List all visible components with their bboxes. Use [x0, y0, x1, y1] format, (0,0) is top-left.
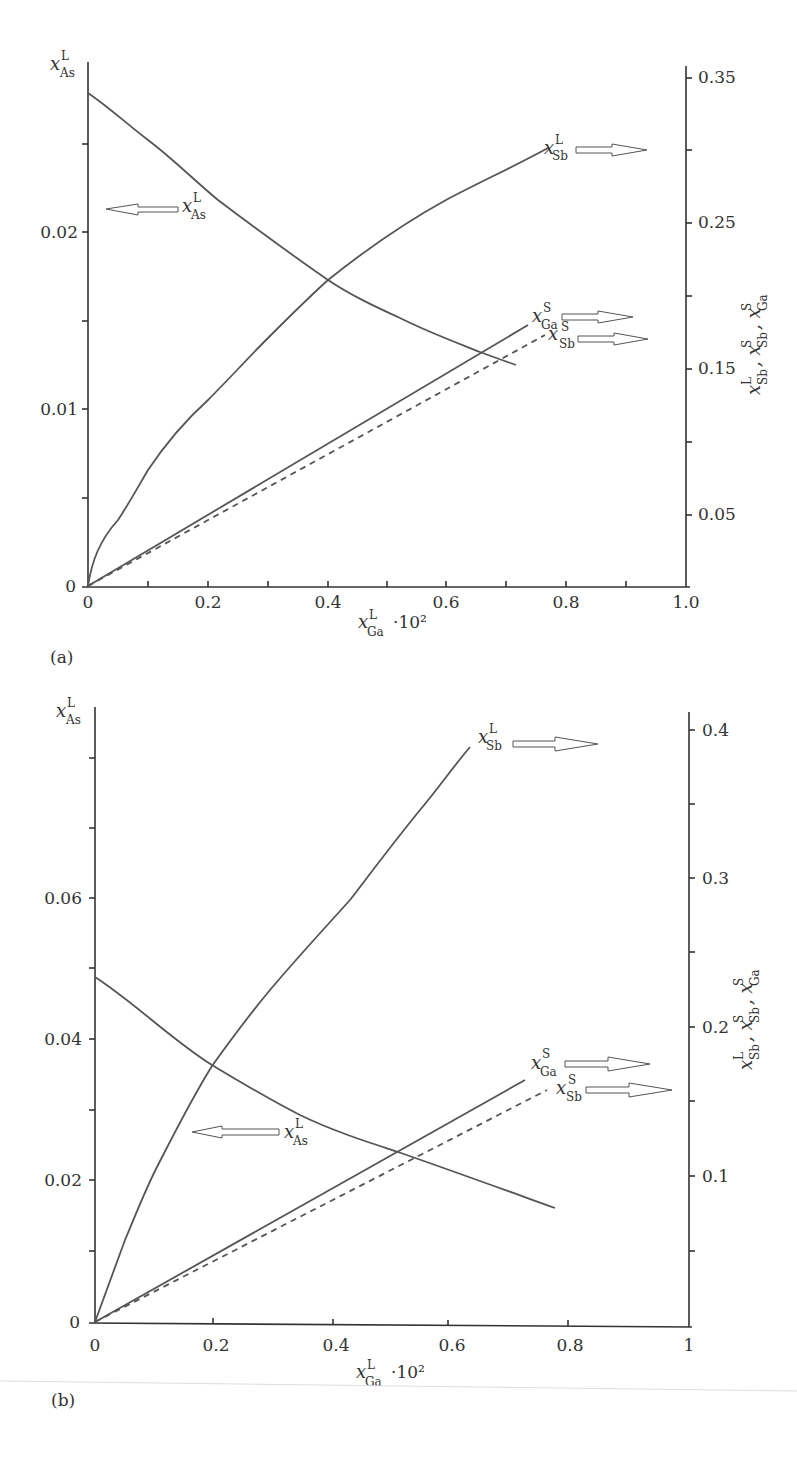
y-right-tick-label: 0.05: [698, 504, 736, 524]
arrow-left-icon: [192, 1126, 279, 1138]
right-ticks-a: [686, 78, 692, 515]
x-title-a: x L Ga ·10²: [358, 608, 427, 639]
svg-text:S: S: [740, 303, 754, 311]
svg-text:L: L: [489, 722, 497, 736]
series-as-l-a: [88, 93, 516, 365]
y-right-tick-label: 0.25: [698, 212, 736, 232]
svg-text:As: As: [190, 208, 206, 222]
y-right-tick-label: 0.2: [702, 1017, 729, 1037]
y-left-tick-label: 0: [65, 576, 76, 596]
svg-text:Ga: Ga: [365, 1375, 382, 1389]
x-tick-label: 0: [90, 1335, 101, 1355]
arrow-right-icon: [586, 1083, 672, 1097]
svg-text:As: As: [65, 713, 81, 727]
label-sb-s-b: x S Sb: [556, 1073, 672, 1104]
svg-text:S: S: [732, 978, 746, 986]
svg-text:L: L: [193, 191, 201, 205]
svg-text:Sb: Sb: [559, 337, 575, 351]
chart-a: 0 0.01 0.02 0.05 0.15 0.25 0.35 0 0.2 0.…: [40, 49, 770, 667]
arrow-left-icon: [106, 204, 178, 215]
label-ga-s-b: x S Ga: [531, 1047, 650, 1079]
x-axis-b: [89, 1323, 692, 1327]
svg-text:Sb: Sb: [756, 332, 770, 348]
arrow-right-icon: [576, 144, 647, 156]
svg-text:Ga: Ga: [748, 969, 762, 986]
x-title-b: x L Ga ·10²: [356, 1358, 425, 1389]
label-sb-s-a: x S Sb: [548, 320, 648, 351]
svg-text:Sb: Sb: [552, 149, 568, 163]
label-sb-l-a: x L Sb: [544, 133, 647, 163]
svg-text:x: x: [735, 1060, 756, 1070]
x-tick-label: 0.2: [194, 592, 221, 612]
label-sb-l-b: x L Sb: [478, 722, 598, 753]
left-ticks-b: [89, 758, 95, 1251]
svg-text:As: As: [292, 1134, 308, 1148]
x-tick-label: 0.4: [322, 1335, 349, 1355]
svg-text:Sb: Sb: [748, 1007, 762, 1023]
svg-text:L: L: [732, 1052, 746, 1060]
figure: 0 0.01 0.02 0.05 0.15 0.25 0.35 0 0.2 0.…: [0, 0, 797, 1461]
y-right-title-a: xLSb , xSSb , xSGa: [740, 294, 770, 395]
svg-text:S: S: [740, 340, 754, 348]
series-sb-s-a: [88, 335, 545, 586]
svg-text:S: S: [543, 301, 551, 315]
series-ga-s-b: [95, 1080, 525, 1322]
y-left-tick-label: 0.02: [40, 222, 78, 242]
x-tick-label: 0.2: [202, 1335, 229, 1355]
left-ticks-a: [82, 144, 88, 498]
svg-text:L: L: [61, 49, 69, 63]
svg-text:S: S: [568, 1073, 576, 1087]
panel-label-b: (b): [51, 1390, 75, 1410]
svg-text:·10²: ·10²: [393, 612, 427, 632]
svg-text:x: x: [56, 700, 66, 721]
svg-text:L: L: [67, 696, 75, 710]
arrow-right-icon: [565, 1057, 650, 1071]
y-right-tick-label: 0.4: [702, 720, 729, 740]
svg-text:x: x: [743, 385, 764, 395]
label-as-l-b: x L As: [192, 1117, 308, 1148]
y-left-tick-label: 0: [69, 1312, 80, 1332]
svg-text:Sb: Sb: [486, 739, 502, 753]
svg-text:L: L: [367, 1358, 375, 1372]
y-left-tick-label: 0.04: [44, 1029, 82, 1049]
series-sb-l-b: [95, 747, 470, 1322]
y-left-title-a: x L As: [50, 49, 75, 80]
y-right-tick-label: 0.1: [702, 1166, 729, 1186]
svg-text:Sb: Sb: [748, 1044, 762, 1060]
svg-text:S: S: [561, 320, 569, 334]
svg-text:L: L: [369, 608, 377, 622]
svg-text:Ga: Ga: [540, 1065, 557, 1079]
y-right-tick-label: 0.15: [698, 358, 736, 378]
svg-text:Sb: Sb: [756, 369, 770, 385]
y-left-tick-label: 0.06: [44, 888, 82, 908]
x-tick-label: 0.6: [432, 592, 459, 612]
y-right-tick-label: 0.35: [698, 67, 736, 87]
svg-text:x: x: [556, 1077, 566, 1098]
y-right-title-b: xLSb , xSSb , xSGa: [732, 969, 762, 1070]
right-ticks-b: [689, 730, 695, 1251]
series-ga-s-a: [88, 325, 528, 586]
x-tick-label: 0.6: [438, 1335, 465, 1355]
svg-text:Ga: Ga: [367, 625, 384, 639]
scan-artifact-line: [0, 1381, 797, 1391]
svg-text:L: L: [295, 1117, 303, 1131]
x-tick-label: 0.4: [314, 592, 341, 612]
y-left-tick-label: 0.02: [44, 1170, 82, 1190]
svg-text:·10²: ·10²: [391, 1362, 425, 1382]
y-right-tick-label: 0.3: [702, 868, 729, 888]
series-as-l-b: [95, 977, 555, 1208]
y-left-tick-label: 0.01: [40, 399, 78, 419]
panel-label-a: (a): [50, 647, 73, 667]
svg-text:As: As: [59, 66, 75, 80]
svg-text:x: x: [548, 323, 558, 344]
chart-b: 0 0.02 0.04 0.06 0.1 0.2 0.3 0.4 0 0.2 0…: [44, 696, 762, 1410]
arrow-right-icon: [562, 311, 633, 323]
x-tick-label: 1.0: [672, 592, 699, 612]
svg-text:L: L: [555, 133, 563, 147]
svg-text:Ga: Ga: [756, 294, 770, 311]
svg-text:S: S: [732, 1015, 746, 1023]
x-ticks-a: [148, 581, 626, 587]
x-tick-label: 1: [684, 1335, 695, 1355]
label-as-l-a: x L As: [106, 191, 206, 222]
svg-text:Sb: Sb: [566, 1090, 582, 1104]
